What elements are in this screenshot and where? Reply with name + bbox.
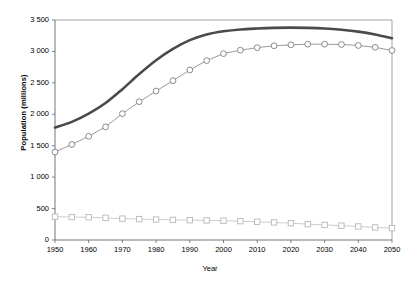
population-chart: Population (millions) Year 05001 0001 50… [0, 0, 420, 284]
y-tick-label: 2 000 [6, 110, 49, 118]
y-tick-label: 500 [6, 205, 49, 213]
y-tick-label: 0 [6, 236, 49, 244]
y-tick-label: 1 500 [6, 142, 49, 150]
y-tick-label: 2 500 [6, 79, 49, 87]
series-circle-marker-line [52, 41, 395, 155]
x-axis-title: Year [0, 264, 420, 273]
y-tick-label: 3 000 [6, 47, 49, 55]
series-square-marker-line [52, 214, 394, 231]
chart-plot-area [0, 0, 420, 284]
y-tick-label: 3 500 [6, 16, 49, 24]
data-series-group [52, 28, 395, 231]
y-tick-label: 1 000 [6, 173, 49, 181]
x-tick-label: 2050 [372, 246, 412, 254]
